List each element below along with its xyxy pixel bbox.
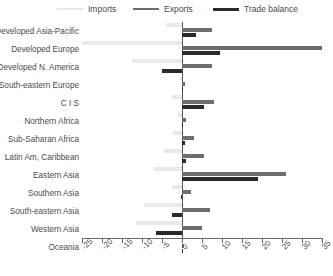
bar-imports xyxy=(180,77,182,81)
y-axis-label: Southern Asia xyxy=(0,184,79,202)
x-axis: -25-20-15-10-505101520253035 xyxy=(82,238,322,276)
chart-row xyxy=(82,130,322,148)
bar-exports xyxy=(182,154,204,158)
chart-row xyxy=(82,166,322,184)
bar-trade-balance xyxy=(182,33,196,37)
chart-row xyxy=(82,40,322,58)
legend-label-imports: Imports xyxy=(88,5,116,14)
chart-row xyxy=(82,76,322,94)
chart-row xyxy=(82,148,322,166)
bar-trade-balance xyxy=(182,51,220,55)
bar-imports xyxy=(172,95,182,99)
legend-item-imports[interactable]: Imports xyxy=(57,0,116,18)
chart-row xyxy=(82,220,322,238)
bar-trade-balance xyxy=(182,123,183,127)
y-axis-label: Eastern Asia xyxy=(0,166,79,184)
legend-label-trade-balance: Trade balance xyxy=(244,5,298,14)
bar-exports xyxy=(182,82,185,86)
x-axis-tick-label: 0 xyxy=(180,242,190,252)
bar-trade-balance xyxy=(182,177,258,181)
bar-imports xyxy=(164,149,182,153)
chart-row xyxy=(82,58,322,76)
bar-trade-balance xyxy=(182,105,204,109)
legend-item-exports[interactable]: Exports xyxy=(133,0,193,18)
bar-imports xyxy=(144,203,182,207)
x-axis-tick-label: 5 xyxy=(200,242,210,252)
chart-legend: Imports Exports Trade balance xyxy=(0,0,330,18)
chart-row xyxy=(82,94,322,112)
bar-imports xyxy=(82,41,182,45)
bar-trade-balance xyxy=(156,231,182,235)
y-axis-label: South-eastern Europe xyxy=(0,76,79,94)
y-axis-label: C I S xyxy=(0,94,79,112)
chart-row xyxy=(82,112,322,130)
bar-exports xyxy=(182,64,212,68)
bar-imports xyxy=(136,221,182,225)
chart-row xyxy=(82,202,322,220)
chart-row xyxy=(82,184,322,202)
plot-area xyxy=(82,22,322,238)
line-swatch-icon xyxy=(213,8,239,11)
y-axis-label: Western Asia xyxy=(0,220,79,238)
bar-trade-balance xyxy=(182,141,185,145)
x-axis-tick-label: -5 xyxy=(160,240,171,251)
bar-exports xyxy=(182,118,186,122)
bar-imports xyxy=(172,185,182,189)
bar-trade-balance xyxy=(181,195,182,199)
bar-imports xyxy=(173,131,182,135)
y-axis-category-labels: Developed Asia-PacificDeveloped EuropeDe… xyxy=(0,22,79,238)
chart-row xyxy=(82,22,322,40)
y-axis-label: Northern Africa xyxy=(0,112,79,130)
y-axis-label: Developed N. America xyxy=(0,58,79,76)
bar-exports xyxy=(182,226,202,230)
y-axis-label: Developed Asia-Pacific xyxy=(0,22,79,40)
line-swatch-icon xyxy=(57,8,83,10)
bar-exports xyxy=(182,28,212,32)
line-swatch-icon xyxy=(133,8,159,10)
y-axis-label: Oceania xyxy=(0,238,79,256)
bar-exports xyxy=(182,46,322,50)
y-axis-label: Latin Am, Caribbean xyxy=(0,148,79,166)
y-axis-label: South-eastern Asia xyxy=(0,202,79,220)
bar-imports xyxy=(154,167,182,171)
bar-imports xyxy=(178,113,182,117)
bar-trade-balance xyxy=(182,159,186,163)
bar-trade-balance xyxy=(172,213,182,217)
bar-imports xyxy=(132,59,182,63)
bar-exports xyxy=(182,208,210,212)
bar-trade-balance xyxy=(182,87,183,91)
bar-imports xyxy=(166,23,182,27)
bar-exports xyxy=(182,136,194,140)
legend-label-exports: Exports xyxy=(164,5,193,14)
bar-exports xyxy=(182,100,214,104)
bar-trade-balance xyxy=(162,69,182,73)
y-axis-label: Sub-Saharan Africa xyxy=(0,130,79,148)
bar-exports xyxy=(182,172,286,176)
legend-item-trade-balance[interactable]: Trade balance xyxy=(213,0,298,18)
y-axis-label: Developed Europe xyxy=(0,40,79,58)
bar-exports xyxy=(182,190,191,194)
